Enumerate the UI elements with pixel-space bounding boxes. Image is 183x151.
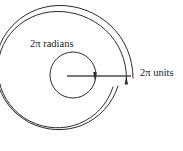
inner-circle xyxy=(50,52,96,98)
diagram-canvas: 2π radians 2π units xyxy=(0,0,183,151)
arc-length-label: 2π units xyxy=(140,67,174,78)
angle-label: 2π radians xyxy=(30,38,74,49)
spiral-diagram-figure: 2π radians 2π units xyxy=(0,0,183,151)
arrow-up-icon xyxy=(125,76,128,85)
outer-spiral-inner-arc xyxy=(0,11,126,127)
